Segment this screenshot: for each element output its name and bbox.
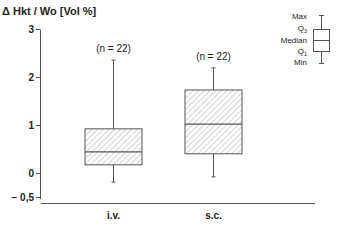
legend: Max Q3 Median Q1 Min	[281, 12, 330, 67]
box-sc: (n = 22)	[185, 51, 242, 177]
y-ticks: 3210− 0,5	[11, 24, 40, 203]
legend-max: Max	[292, 12, 307, 21]
y-tick-label: 0	[28, 168, 34, 179]
y-tick-label: 2	[28, 72, 34, 83]
y-tick-label: − 0,5	[11, 192, 34, 203]
n-label: (n = 22)	[196, 51, 231, 62]
legend-q3: Q3	[298, 24, 307, 34]
y-tick-label: 1	[28, 120, 34, 131]
legend-min: Min	[294, 58, 307, 67]
x-tick-label: i.v.	[107, 210, 120, 221]
x-tick-labels: i.v.s.c.	[107, 210, 222, 221]
n-label: (n = 22)	[96, 43, 131, 54]
legend-q1: Q1	[298, 47, 307, 57]
box-iv: (n = 22)	[85, 43, 142, 182]
y-tick-label: 3	[28, 24, 34, 35]
boxplot-chart: Δ Hkt / Wo [Vol %] 3210− 0,5 (n = 22)(n …	[0, 0, 342, 226]
y-axis-label: Δ Hkt / Wo [Vol %]	[2, 5, 97, 17]
boxes: (n = 22)(n = 22)	[85, 43, 242, 182]
x-tick-label: s.c.	[205, 210, 222, 221]
legend-median: Median	[281, 36, 307, 45]
